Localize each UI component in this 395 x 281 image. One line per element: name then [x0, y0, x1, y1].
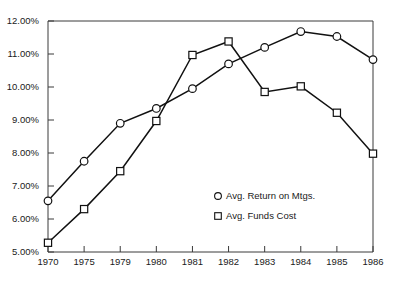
square-marker-icon [117, 168, 124, 175]
square-marker-icon [369, 150, 376, 157]
x-axis-label: 1981 [182, 256, 203, 267]
square-marker-icon [215, 213, 222, 220]
series-layer [44, 28, 377, 247]
square-marker-icon [81, 206, 88, 213]
x-axis-label: 1970 [37, 256, 58, 267]
series-line-2 [48, 41, 373, 242]
x-axis-label: 1986 [362, 256, 383, 267]
x-axis-label: 1982 [218, 256, 239, 267]
circle-marker-icon [225, 60, 233, 68]
square-marker-icon [225, 38, 232, 45]
square-marker-icon [261, 88, 268, 95]
square-marker-icon [333, 109, 340, 116]
y-axis-label: 7.00% [12, 180, 39, 191]
circle-marker-icon [116, 120, 124, 128]
square-marker-icon [189, 51, 196, 58]
y-axis-label: 8.00% [12, 147, 39, 158]
circle-marker-icon [297, 28, 305, 36]
x-axis-label: 1975 [74, 256, 95, 267]
square-marker-icon [153, 117, 160, 124]
circle-marker-icon [369, 56, 377, 64]
plot-frame [48, 21, 373, 252]
y-axis: 5.00%6.00%7.00%8.00%9.00%10.00%11.00%12.… [7, 15, 54, 257]
y-axis-label: 11.00% [7, 48, 39, 59]
legend-item-2: Avg. Funds Cost [215, 210, 297, 221]
legend-item-1: Avg. Return on Mtgs. [215, 190, 315, 201]
y-axis-label: 6.00% [12, 213, 39, 224]
x-axis-label: 1979 [110, 256, 131, 267]
circle-marker-icon [80, 157, 88, 165]
x-axis-label: 1985 [326, 256, 347, 267]
x-axis-label: 1980 [146, 256, 167, 267]
x-axis-label: 1984 [290, 256, 311, 267]
x-axis: 1970197519791980198119821983198419851986 [37, 246, 383, 267]
y-axis-label: 10.00% [7, 81, 40, 92]
circle-marker-icon [44, 197, 52, 205]
series-2 [44, 38, 376, 247]
chart-legend: Avg. Return on Mtgs.Avg. Funds Cost [215, 190, 315, 221]
legend-label: Avg. Funds Cost [226, 210, 296, 221]
circle-marker-icon [215, 193, 222, 200]
series-line-1 [48, 32, 373, 201]
y-axis-label: 9.00% [12, 114, 39, 125]
y-axis-label: 5.00% [12, 246, 39, 257]
square-marker-icon [44, 239, 51, 246]
square-marker-icon [297, 83, 304, 90]
plot-border [48, 21, 373, 252]
series-1 [44, 28, 377, 205]
legend-label: Avg. Return on Mtgs. [226, 190, 315, 201]
chart-canvas: 5.00%6.00%7.00%8.00%9.00%10.00%11.00%12.… [0, 0, 395, 281]
x-axis-label: 1983 [254, 256, 275, 267]
y-axis-label: 12.00% [7, 15, 40, 26]
circle-marker-icon [153, 105, 161, 113]
circle-marker-icon [261, 44, 269, 52]
line-chart: 5.00%6.00%7.00%8.00%9.00%10.00%11.00%12.… [0, 0, 395, 281]
circle-marker-icon [333, 33, 341, 41]
circle-marker-icon [189, 85, 197, 93]
